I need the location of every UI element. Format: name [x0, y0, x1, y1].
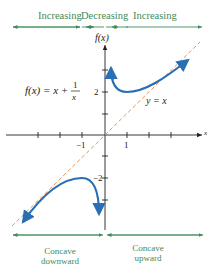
tick-label-yneg2: −2 — [93, 173, 103, 183]
function-label: f(x) = x + 1 x — [25, 80, 80, 102]
y-axis-label: f(x) — [95, 32, 110, 44]
figure: Increasing Decreasing Increasing f(x) x … — [0, 0, 212, 275]
function-lhs: f(x) = x + — [25, 84, 68, 97]
monotonicity-labels: Increasing Decreasing Increasing — [38, 10, 177, 21]
tick-label-pos1: 1 — [124, 140, 129, 150]
label-concave-up-2: upward — [135, 253, 162, 263]
label-decreasing: Decreasing — [81, 10, 129, 21]
curve-negative-branch-right — [82, 178, 99, 214]
function-numerator: 1 — [73, 80, 78, 90]
tick-label-neg1: −1 — [76, 140, 86, 150]
label-concave-up-1: Concave — [132, 243, 164, 253]
curve-negative-branch-left — [23, 178, 82, 222]
function-denominator: x — [71, 92, 76, 102]
concavity-labels: Concave downward Concave upward — [41, 243, 164, 266]
x-axis-label: x — [203, 129, 208, 137]
label-concave-down-2: downward — [41, 256, 79, 266]
label-increasing-right: Increasing — [133, 10, 177, 21]
curve-positive-arrow-up — [111, 68, 113, 80]
asymptote-label: y = x — [145, 95, 167, 106]
tick-label-y2: 2 — [94, 87, 99, 97]
label-concave-down-1: Concave — [44, 246, 76, 256]
label-increasing-left: Increasing — [38, 10, 82, 21]
